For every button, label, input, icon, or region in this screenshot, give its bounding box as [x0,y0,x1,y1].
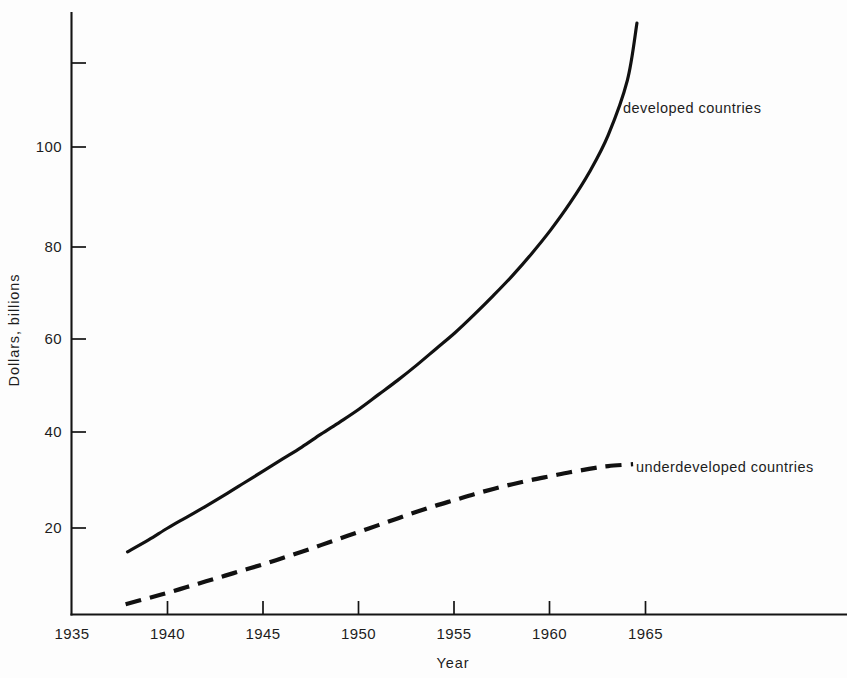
line-chart-canvas: 100 80 60 40 20 1935 1940 1945 1950 1955… [0,0,847,678]
y-tick-label-100: 100 [36,138,62,155]
x-tick-label-1935: 1935 [55,625,90,642]
x-tick-label-1950: 1950 [341,625,376,642]
x-tick-label-1965: 1965 [628,625,663,642]
y-tick-label-60: 60 [45,330,63,347]
series-curve-underdeveloped-countries [126,464,633,604]
series-label-underdeveloped-countries: underdeveloped countries [636,459,814,475]
x-tick-label-1960: 1960 [532,625,567,642]
y-tick-label-20: 20 [45,519,63,536]
x-tick-label-1945: 1945 [246,625,281,642]
y-tick-label-80: 80 [45,238,63,255]
chart-figure: 100 80 60 40 20 1935 1940 1945 1950 1955… [0,0,847,678]
y-axis-title: Dollars, billions [6,274,22,387]
x-tick-label-1940: 1940 [150,625,185,642]
series-label-developed-countries: developed countries [623,100,761,116]
x-tick-label-1955: 1955 [437,625,472,642]
x-axis-title: Year [437,655,470,671]
y-tick-label-40: 40 [45,423,63,440]
